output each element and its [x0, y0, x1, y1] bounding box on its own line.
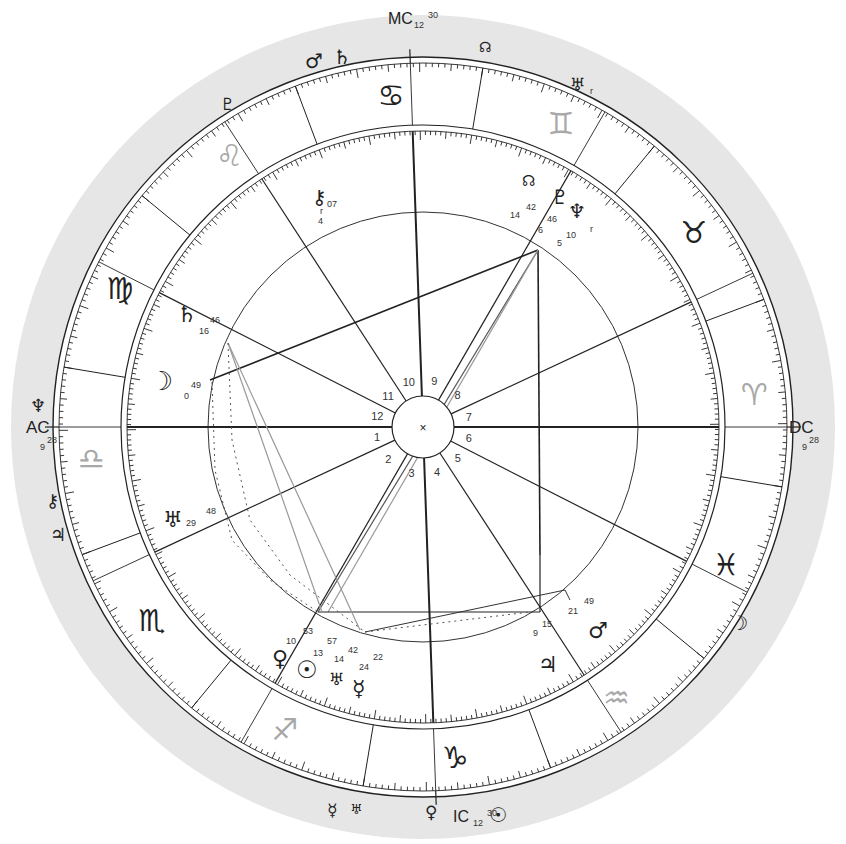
house-number-8: 8	[455, 389, 461, 401]
house-number-5: 5	[455, 452, 461, 464]
uranus-alt-degree: 14	[334, 654, 344, 664]
jupiter-icon: ♃	[538, 652, 558, 677]
outer-tick	[395, 783, 396, 790]
outer-tick	[779, 480, 783, 481]
transit-mars-icon: ♂	[305, 49, 323, 73]
outer-tick	[369, 67, 370, 71]
inner-tick	[461, 716, 462, 720]
transit-moon-icon: ☽	[730, 611, 748, 635]
uranus-alt-minute: 42	[348, 645, 358, 655]
outer-tick	[470, 784, 471, 788]
outer-tick	[780, 379, 784, 380]
ac-minute: 28	[47, 435, 57, 445]
dc-degree: 9	[802, 442, 807, 452]
transit-mercury-icon: ☿	[327, 800, 337, 820]
sign-taurus-icon: ♉	[681, 215, 708, 250]
mc-minute: 30	[428, 10, 438, 20]
inner-tick	[466, 134, 467, 138]
ac-degree: 9	[40, 442, 45, 452]
mars-minute: 49	[584, 596, 594, 606]
saturn-minute: 46	[210, 315, 220, 325]
outer-tick	[451, 64, 452, 71]
inner-tick	[385, 717, 386, 721]
chiron-minute: 07	[327, 199, 337, 209]
sign-sagittarius-icon: ♐	[272, 712, 299, 747]
outer-tick	[779, 373, 783, 374]
house-number-11: 11	[382, 390, 393, 402]
sun-icon: ☉	[296, 656, 318, 684]
venus-minute: 53	[303, 626, 313, 636]
moon-minute: 49	[191, 380, 201, 390]
ic-label: IC	[453, 808, 469, 825]
inner-tick	[128, 404, 135, 405]
jupiter-minute: 15	[542, 619, 552, 629]
outer-tick	[63, 373, 67, 374]
mc-label: MC	[388, 10, 413, 27]
outer-tick	[376, 784, 377, 788]
house-number-6: 6	[466, 432, 472, 444]
transit-pluto-icon: ♇	[220, 94, 235, 114]
venus-icon: ♀	[272, 646, 288, 671]
house-number-12: 12	[371, 410, 383, 422]
transit-north-node-icon: ☊	[479, 39, 491, 55]
saturn-icon: ♄	[177, 302, 197, 327]
house-number-10: 10	[403, 376, 415, 388]
sun-minute: 57	[327, 636, 337, 646]
mars-icon: ♂	[588, 618, 608, 643]
transit-saturn-icon: ♄	[333, 45, 351, 69]
pluto-degree: 6	[538, 225, 543, 235]
sun-degree: 13	[313, 648, 323, 658]
sign-capricorn-icon: ♑	[442, 740, 469, 775]
north-node-icon: ☊	[522, 172, 535, 190]
inner-tick	[711, 450, 718, 451]
inner-tick	[130, 465, 134, 466]
venus-degree: 10	[286, 636, 296, 646]
transit-chiron-icon: ⚷	[46, 490, 59, 511]
neptune-degree: 5	[557, 238, 562, 248]
sign-aries-icon: ♈	[741, 377, 768, 412]
inner-tick	[712, 470, 716, 471]
outer-tick	[375, 66, 376, 70]
inner-tick	[130, 470, 134, 471]
mc-degree: 12	[414, 20, 424, 30]
moon-degree: 0	[184, 391, 189, 401]
mercury-icon: ☿	[352, 676, 366, 701]
pluto-icon: ♇	[551, 185, 569, 209]
neptune-icon: ♆	[568, 199, 586, 223]
house-number-1: 1	[374, 431, 380, 443]
transit-uranus-retro: r	[590, 86, 593, 96]
outer-tick	[63, 480, 67, 481]
sign-virgo-icon: ♍	[106, 271, 133, 306]
pluto-minute: 46	[547, 214, 557, 224]
uranus-minute: 48	[206, 506, 216, 516]
mercury-degree: 24	[359, 662, 369, 672]
chiron-degree: 4	[318, 216, 323, 226]
uranus-alt-icon: ♅	[329, 669, 344, 689]
outer-tick	[476, 67, 477, 71]
inner-tick	[130, 383, 134, 384]
transit-jupiter-icon: ♃	[50, 524, 66, 545]
transit-uranus-icon: ♅	[570, 74, 585, 94]
neptune-retro: r	[590, 224, 593, 234]
inner-tick	[461, 134, 462, 138]
transit-uranus-2-icon: ♅	[350, 801, 363, 817]
inner-tick	[400, 715, 401, 722]
inner-tick	[466, 716, 467, 720]
inner-tick	[130, 389, 134, 390]
astrology-chart-wheel: ♋♊♉♈♓♒♑♐♏♎♍♌ × 123456789101112 AC 9 28 D…	[0, 0, 846, 844]
sign-libra-icon: ♎	[78, 441, 105, 476]
outer-tick	[60, 399, 67, 400]
house-number-9: 9	[431, 375, 437, 387]
house-number-7: 7	[466, 411, 472, 423]
outer-tick	[62, 474, 66, 475]
sign-scorpio-icon: ♏	[139, 603, 166, 638]
transit-venus-icon: ♀	[425, 802, 437, 822]
inner-tick	[446, 132, 447, 139]
outer-tick	[779, 455, 786, 456]
inner-tick	[712, 388, 716, 389]
outer-tick	[476, 783, 477, 787]
outer-tick	[470, 66, 471, 70]
jupiter-degree: 9	[533, 628, 538, 638]
inner-tick	[713, 465, 717, 466]
outer-tick	[62, 380, 66, 381]
